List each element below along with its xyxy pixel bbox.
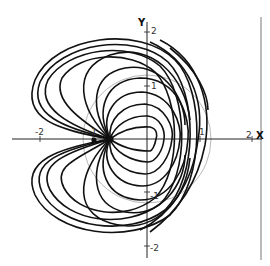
x-tick-neg2: -2 [35, 128, 44, 137]
singular-point [107, 136, 114, 143]
y-tick-1: 1 [151, 82, 157, 91]
x-tick-1: 1 [199, 128, 205, 137]
y-axis-label: Y [138, 18, 145, 27]
y-tick-neg1: -1 [150, 192, 159, 201]
y-tick-2: 2 [151, 27, 157, 36]
y-tick-neg2: -2 [150, 244, 159, 253]
phase-portrait-figure: Y X -2 -1 1 2 2 1 -1 -2 [0, 0, 270, 266]
orbit-curves [32, 39, 208, 232]
marker-point [91, 137, 96, 142]
x-tick-neg1: -1 [88, 128, 97, 137]
x-tick-2: 2 [246, 131, 252, 140]
x-axis-label: X [256, 131, 264, 140]
